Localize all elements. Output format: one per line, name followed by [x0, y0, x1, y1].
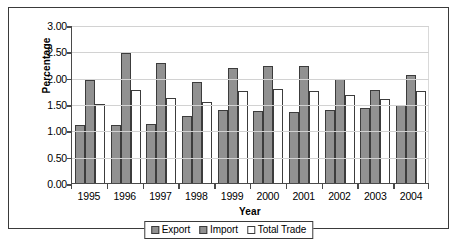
- bar-total: [95, 104, 105, 183]
- x-tick-label: 2002: [322, 190, 358, 204]
- bar-total: [166, 98, 176, 183]
- y-tick-label: 0.00: [47, 179, 67, 189]
- x-tick-label: 2003: [357, 190, 393, 204]
- x-tick-mark: [322, 184, 323, 189]
- y-tick-label: 2.50: [47, 47, 67, 57]
- bar-export: [111, 125, 121, 183]
- x-tick-mark: [393, 184, 394, 189]
- chart-frame: Percentage 0.000.501.001.502.002.503.00 …: [8, 7, 449, 229]
- x-tick-label: 1996: [107, 190, 143, 204]
- bar-total: [380, 99, 390, 183]
- gridline: [72, 52, 429, 53]
- legend-item[interactable]: Total Trade: [247, 224, 306, 235]
- x-tick-mark: [428, 184, 429, 189]
- bar-total: [345, 95, 355, 183]
- x-tick-label: 2000: [250, 190, 286, 204]
- x-tick-label: 1999: [214, 190, 250, 204]
- bar-export: [218, 110, 228, 183]
- legend-label: Export: [162, 224, 190, 235]
- y-axis-tick-labels: 0.000.501.001.502.002.503.00: [31, 26, 67, 184]
- bar-export: [325, 110, 335, 183]
- bar-export: [396, 105, 406, 183]
- x-tick-mark: [250, 184, 251, 189]
- bar-export: [253, 111, 263, 183]
- bar-total: [202, 102, 212, 183]
- x-axis-title: Year: [71, 206, 429, 217]
- bar-export: [182, 116, 192, 183]
- bar-import: [192, 82, 202, 183]
- chart-legend: ExportImportTotal Trade: [144, 221, 313, 239]
- x-tick-label: 2004: [393, 190, 429, 204]
- bar-import: [406, 75, 416, 183]
- bar-import: [370, 90, 380, 183]
- y-tick-mark: [67, 79, 72, 81]
- x-tick-mark: [357, 184, 358, 189]
- x-tick-label: 2001: [286, 190, 322, 204]
- x-tick-mark: [107, 184, 108, 189]
- chart-screenshot: Percentage 0.000.501.001.502.002.503.00 …: [0, 0, 459, 247]
- legend-label: Total Trade: [258, 224, 306, 235]
- y-tick-mark: [67, 26, 72, 28]
- y-tick-mark: [67, 158, 72, 160]
- x-axis-tick-labels: 1995199619971998199920002001200220032004: [71, 190, 429, 204]
- y-tick-label: 3.00: [47, 21, 67, 31]
- bar-export: [289, 112, 299, 183]
- legend-label: Import: [210, 224, 238, 235]
- x-axis-tick-marks: [71, 184, 429, 189]
- bar-export: [360, 108, 370, 183]
- x-tick-mark: [71, 184, 72, 189]
- bar-import: [121, 53, 131, 183]
- bar-import: [299, 66, 309, 183]
- y-tick-label: 1.00: [47, 126, 67, 136]
- x-tick-mark: [214, 184, 215, 189]
- gridline: [72, 158, 429, 159]
- y-tick-label: 0.50: [47, 153, 67, 163]
- y-tick-label: 1.50: [47, 100, 67, 110]
- legend-item[interactable]: Import: [199, 224, 238, 235]
- total-trade-swatch-icon: [247, 226, 255, 234]
- gridline: [72, 26, 429, 27]
- bar-import: [156, 63, 166, 183]
- y-tick-mark: [67, 105, 72, 107]
- x-tick-label: 1995: [71, 190, 107, 204]
- legend-item[interactable]: Export: [151, 224, 190, 235]
- bar-export: [75, 125, 85, 183]
- bar-import: [263, 66, 273, 183]
- import-swatch-icon: [199, 226, 207, 234]
- y-tick-mark: [67, 131, 72, 133]
- bar-import: [228, 68, 238, 183]
- gridline: [72, 105, 429, 106]
- y-tick-label: 2.00: [47, 74, 67, 84]
- y-tick-mark: [67, 52, 72, 54]
- gridline: [72, 79, 429, 80]
- x-tick-mark: [143, 184, 144, 189]
- bar-export: [146, 124, 156, 183]
- x-tick-mark: [286, 184, 287, 189]
- x-tick-label: 1997: [143, 190, 179, 204]
- x-tick-label: 1998: [178, 190, 214, 204]
- export-swatch-icon: [151, 226, 159, 234]
- x-tick-mark: [178, 184, 179, 189]
- bar-total: [273, 89, 283, 183]
- gridline: [72, 131, 429, 132]
- plot-area: [71, 26, 429, 184]
